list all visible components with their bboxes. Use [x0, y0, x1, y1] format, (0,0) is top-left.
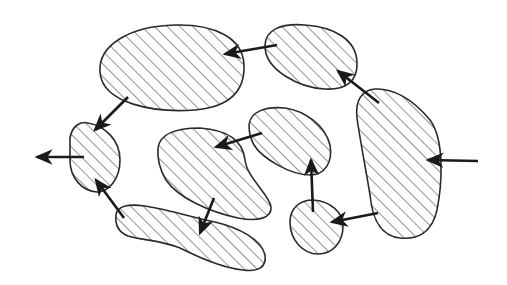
diagram-canvas — [0, 0, 507, 285]
region-bottom-small-circle — [290, 200, 343, 254]
region-center-right — [249, 108, 331, 175]
arrow-outside-to-right-tall — [428, 160, 478, 161]
arrow-top-left-to-left-small — [95, 97, 128, 130]
region-top-right-small — [265, 25, 357, 89]
region-top-left-large — [100, 25, 244, 111]
